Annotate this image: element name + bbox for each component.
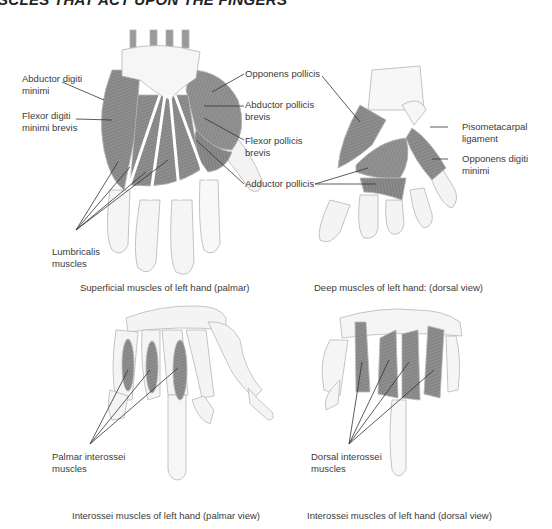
label-flexor-digiti-minimi-brevis: Flexor digiti minimi brevis [22,110,77,133]
label-adductor-pollicis: Adductor pollicis [245,178,314,190]
label-abductor-digiti-minimi: Abductor digiti minimi [22,73,82,96]
caption-superficial-palmar: Superficial muscles of left hand (palmar… [80,282,250,293]
caption-interossei-dorsal: Interossei muscles of left hand (dorsal … [307,510,492,521]
label-lumbricalis-muscles: Lumbricalis muscles [52,246,100,269]
label-opponens-digiti-minimi: Opponens digiti minimi [462,153,528,176]
label-pisometacarpal-ligament: Pisometacarpal ligament [462,121,527,144]
label-flexor-pollicis-brevis: Flexor pollicis brevis [245,135,303,158]
label-dorsal-interossei-muscles: Dorsal interossei muscles [311,451,382,474]
hand-deep-dorsal [319,66,456,242]
hand-superficial-palmar [101,30,262,274]
label-opponens-pollicis: Opponens pollicis [245,68,320,80]
label-abductor-pollicis-brevis: Abductor pollicis brevis [245,99,314,122]
caption-interossei-palmar: Interossei muscles of left hand (palmar … [72,510,260,521]
label-palmar-interossei-muscles: Palmar interossei muscles [52,451,125,474]
hand-interossei-palmar [108,306,273,480]
caption-deep-dorsal: Deep muscles of left hand: (dorsal view) [314,282,483,293]
